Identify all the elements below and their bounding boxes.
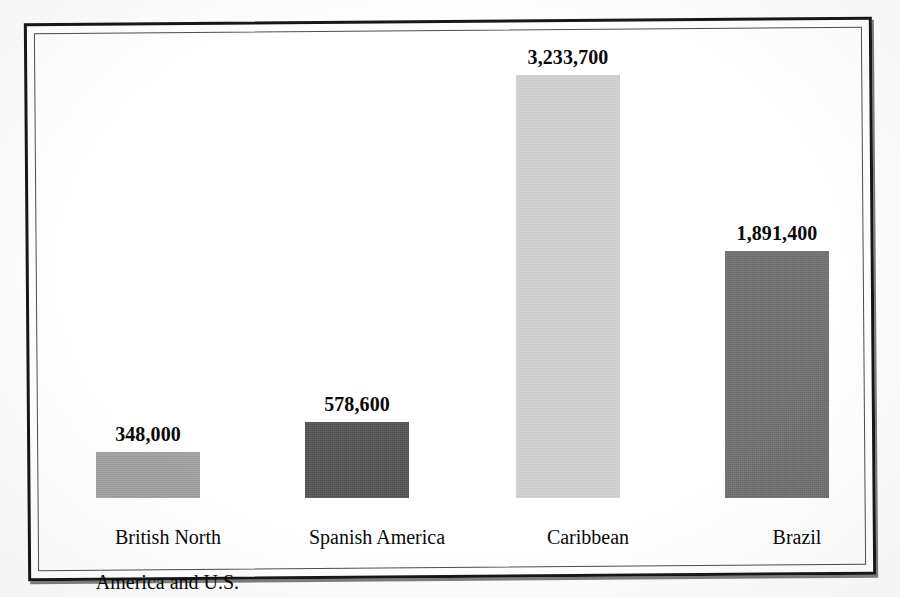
bar-category-label: British North America and U.S. xyxy=(38,504,258,597)
bar-chart-plot-area: 348,000 British North America and U.S. 5… xyxy=(0,0,900,597)
bar-rect[interactable] xyxy=(96,452,200,498)
bar-group-spanish-america[interactable]: 578,600 Spanish America xyxy=(305,422,409,498)
bar-category-label-line2: America and U.S. xyxy=(96,571,239,593)
bar-group-caribbean[interactable]: 3,233,700 Caribbean xyxy=(516,75,620,498)
bar-group-british-north-america[interactable]: 348,000 British North America and U.S. xyxy=(96,452,200,498)
bar-group-brazil[interactable]: 1,891,400 Brazil xyxy=(725,251,829,498)
bar-value-label: 3,233,700 xyxy=(528,46,609,69)
bar-value-label: 1,891,400 xyxy=(737,222,818,245)
bar-value-label: 348,000 xyxy=(115,423,181,446)
bar-category-label-line1: Caribbean xyxy=(547,526,629,548)
scanned-page: 348,000 British North America and U.S. 5… xyxy=(0,0,900,597)
bar-category-label-line1: Brazil xyxy=(773,526,822,548)
bar-rect[interactable] xyxy=(305,422,409,498)
bar-rect[interactable] xyxy=(725,251,829,498)
bar-rect[interactable] xyxy=(516,75,620,498)
bar-category-label-line1: British North xyxy=(115,526,221,548)
bar-category-label: Spanish America xyxy=(247,504,467,571)
bar-category-label: Caribbean xyxy=(458,504,678,571)
bar-category-label: Brazil xyxy=(667,504,887,571)
bar-category-label-line1: Spanish America xyxy=(309,526,445,548)
bar-value-label: 578,600 xyxy=(324,393,390,416)
